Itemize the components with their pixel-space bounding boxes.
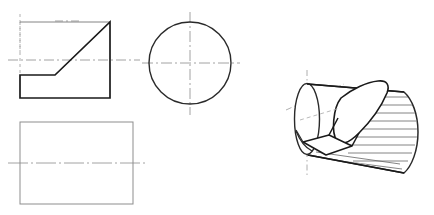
pictorial-view [286,70,418,178]
side-view [142,12,240,115]
drawing-sheet: Orthographic Projection with Pictorial V… [0,0,434,215]
front-view [8,14,140,98]
technical-drawing-canvas [0,0,434,215]
top-view [8,122,146,204]
